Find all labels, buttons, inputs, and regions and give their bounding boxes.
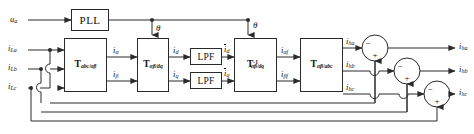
t-alphabeta-dq-label: Tαβ/dq bbox=[143, 60, 162, 70]
t-alphabeta-dq-inverse-block[interactable]: T-1αβ/dq bbox=[234, 38, 277, 92]
lpf-d-label: LPF bbox=[198, 52, 215, 62]
sum-b-minus: − bbox=[397, 61, 402, 71]
input-label-ua: ua bbox=[10, 15, 17, 24]
sum-c-minus: − bbox=[427, 84, 432, 94]
wire-hop-a bbox=[46, 64, 50, 73]
sum-b-plus: + bbox=[404, 73, 409, 83]
signal-label-ihb-mid: ihb bbox=[346, 60, 354, 69]
t-abc-alphabeta-label: Tabc/αβ bbox=[75, 60, 97, 70]
dot-iLc-tap bbox=[29, 86, 33, 90]
signal-label-i-alpha: iα bbox=[113, 46, 119, 55]
lpf-q-label: LPF bbox=[198, 76, 215, 86]
t-alphabeta-dq-block[interactable]: Tαβ/dq bbox=[137, 38, 169, 92]
input-label-iLc: iLc bbox=[8, 82, 16, 91]
dot-iLa-tap bbox=[48, 48, 52, 52]
signal-label-i-d: id bbox=[173, 46, 178, 55]
signal-label-i-alpha-f: iαf bbox=[281, 46, 288, 55]
t-alphabeta-abc-block[interactable]: Tαβ/abc bbox=[300, 38, 343, 92]
output-label-iha: iha bbox=[459, 42, 467, 51]
signal-label-i-q-bar: iq bbox=[224, 69, 229, 78]
sum-c-plus: + bbox=[434, 96, 439, 106]
signal-label-i-q: iq bbox=[173, 70, 178, 79]
output-label-ihc: ihc bbox=[459, 88, 467, 97]
output-label-ihb: ihb bbox=[459, 65, 467, 74]
sum-a-plus: + bbox=[372, 50, 377, 60]
signal-label-i-beta-f: iβf bbox=[281, 70, 288, 79]
signal-label-i-beta: iβ bbox=[113, 70, 118, 79]
pll-block[interactable]: PLL bbox=[71, 9, 109, 31]
signal-label-iha-mid: iha bbox=[346, 37, 354, 46]
dot-theta-tap bbox=[150, 18, 154, 22]
input-label-iLa: iLa bbox=[8, 44, 17, 53]
lpf-q-block[interactable]: LPF bbox=[190, 72, 222, 89]
signal-label-i-d-bar: id bbox=[224, 45, 229, 54]
pll-label: PLL bbox=[80, 14, 101, 26]
dot-iLb-tap bbox=[39, 67, 43, 71]
lpf-d-block[interactable]: LPF bbox=[190, 48, 222, 65]
theta-label-2: θ bbox=[253, 20, 257, 30]
sum-a-minus: − bbox=[365, 38, 370, 48]
dot-theta-tap-2 bbox=[246, 18, 250, 22]
input-label-iLb: iLb bbox=[8, 63, 17, 72]
t-alphabeta-dq-inverse-label: T-1αβ/dq bbox=[247, 60, 264, 70]
t-abc-alphabeta-block[interactable]: Tabc/αβ bbox=[64, 38, 107, 92]
block-diagram: − + − + − + PLL Tabc/αβ Tαβ/dq LPF LPF T… bbox=[0, 0, 474, 134]
t-alphabeta-abc-label: Tαβ/abc bbox=[311, 60, 333, 70]
signal-label-ihc-mid: ihc bbox=[346, 83, 354, 92]
theta-label-1: θ bbox=[156, 23, 160, 33]
